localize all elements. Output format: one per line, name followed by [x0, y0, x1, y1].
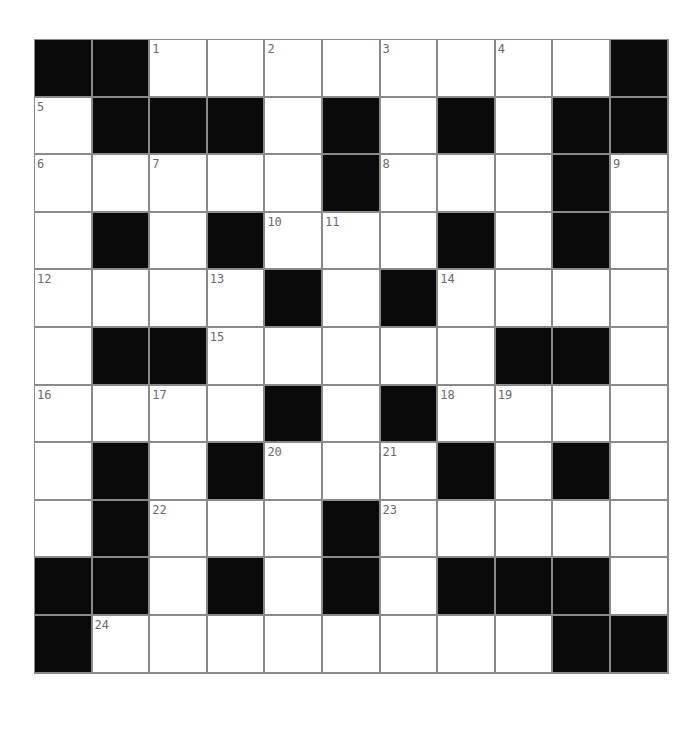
crossword-cell[interactable]: [150, 443, 208, 501]
crossword-cell[interactable]: [93, 270, 151, 328]
crossword-cell[interactable]: [381, 616, 439, 674]
crossword-cell[interactable]: 2: [265, 40, 323, 98]
crossword-cell[interactable]: 22: [150, 501, 208, 559]
crossword-cell[interactable]: 8: [381, 155, 439, 213]
crossword-cell[interactable]: [611, 328, 669, 386]
crossword-cell[interactable]: 3: [381, 40, 439, 98]
crossword-cell[interactable]: 23: [381, 501, 439, 559]
crossword-cell[interactable]: [611, 386, 669, 444]
crossword-cell[interactable]: [265, 558, 323, 616]
crossword-cell[interactable]: 7: [150, 155, 208, 213]
black-square: [265, 270, 323, 328]
crossword-cell[interactable]: 14: [438, 270, 496, 328]
crossword-cell[interactable]: [323, 616, 381, 674]
crossword-cell[interactable]: [438, 501, 496, 559]
crossword-cell[interactable]: [150, 558, 208, 616]
crossword-cell[interactable]: [150, 213, 208, 271]
black-square: [553, 558, 611, 616]
black-square: [611, 616, 669, 674]
crossword-cell[interactable]: [208, 386, 266, 444]
crossword-cell[interactable]: [496, 501, 554, 559]
black-square: [93, 443, 151, 501]
crossword-cell[interactable]: [323, 386, 381, 444]
crossword-cell[interactable]: [323, 40, 381, 98]
crossword-cell[interactable]: [496, 270, 554, 328]
black-square: [323, 98, 381, 156]
clue-number: 20: [267, 446, 281, 458]
black-square: [381, 386, 439, 444]
crossword-cell[interactable]: 6: [35, 155, 93, 213]
black-square: [35, 558, 93, 616]
crossword-cell[interactable]: [323, 443, 381, 501]
crossword-cell[interactable]: [438, 328, 496, 386]
crossword-cell[interactable]: [93, 155, 151, 213]
crossword-cell[interactable]: 24: [93, 616, 151, 674]
crossword-cell[interactable]: [496, 98, 554, 156]
crossword-cell[interactable]: [35, 443, 93, 501]
crossword-cell[interactable]: [265, 155, 323, 213]
clue-number: 22: [152, 504, 166, 516]
black-square: [381, 270, 439, 328]
crossword-cell[interactable]: [381, 213, 439, 271]
crossword-cell[interactable]: [208, 501, 266, 559]
crossword-cell[interactable]: [611, 443, 669, 501]
clue-number: 6: [37, 158, 44, 170]
crossword-cell[interactable]: 12: [35, 270, 93, 328]
crossword-cell[interactable]: [265, 501, 323, 559]
crossword-cell[interactable]: [553, 386, 611, 444]
black-square: [553, 443, 611, 501]
crossword-cell[interactable]: 17: [150, 386, 208, 444]
crossword-cell[interactable]: [265, 616, 323, 674]
crossword-cell[interactable]: [553, 270, 611, 328]
crossword-cell[interactable]: 5: [35, 98, 93, 156]
black-square: [93, 213, 151, 271]
crossword-cell[interactable]: [553, 40, 611, 98]
crossword-cell[interactable]: [265, 98, 323, 156]
crossword-cell[interactable]: 4: [496, 40, 554, 98]
crossword-cell[interactable]: [611, 270, 669, 328]
crossword-cell[interactable]: [438, 616, 496, 674]
crossword-cell[interactable]: [150, 270, 208, 328]
crossword-cell[interactable]: [438, 155, 496, 213]
clue-number: 24: [95, 619, 109, 631]
crossword-cell[interactable]: [381, 558, 439, 616]
crossword-cell[interactable]: 11: [323, 213, 381, 271]
crossword-cell[interactable]: 21: [381, 443, 439, 501]
crossword-cell[interactable]: [35, 213, 93, 271]
crossword-cell[interactable]: [208, 155, 266, 213]
clue-number: 19: [498, 389, 512, 401]
black-square: [611, 40, 669, 98]
crossword-cell[interactable]: [208, 616, 266, 674]
crossword-cell[interactable]: 18: [438, 386, 496, 444]
crossword-cell[interactable]: [381, 328, 439, 386]
crossword-cell[interactable]: [381, 98, 439, 156]
crossword-cell[interactable]: [611, 501, 669, 559]
crossword-cell[interactable]: [208, 40, 266, 98]
crossword-cell[interactable]: [611, 213, 669, 271]
crossword-cell[interactable]: [323, 270, 381, 328]
crossword-cell[interactable]: 16: [35, 386, 93, 444]
crossword-cell[interactable]: [496, 155, 554, 213]
crossword-cell[interactable]: 15: [208, 328, 266, 386]
crossword-cell[interactable]: 10: [265, 213, 323, 271]
crossword-cell[interactable]: [553, 501, 611, 559]
crossword-cell[interactable]: 1: [150, 40, 208, 98]
crossword-cell[interactable]: [496, 443, 554, 501]
black-square: [265, 386, 323, 444]
crossword-cell[interactable]: [265, 328, 323, 386]
crossword-cell[interactable]: 9: [611, 155, 669, 213]
crossword-cell[interactable]: [35, 501, 93, 559]
black-square: [35, 40, 93, 98]
crossword-cell[interactable]: [93, 386, 151, 444]
crossword-cell[interactable]: [611, 558, 669, 616]
crossword-cell[interactable]: 20: [265, 443, 323, 501]
crossword-cell[interactable]: 13: [208, 270, 266, 328]
crossword-cell[interactable]: [496, 213, 554, 271]
black-square: [93, 558, 151, 616]
crossword-cell[interactable]: [323, 328, 381, 386]
crossword-cell[interactable]: [438, 40, 496, 98]
crossword-cell[interactable]: [150, 616, 208, 674]
crossword-cell[interactable]: 19: [496, 386, 554, 444]
crossword-cell[interactable]: [35, 328, 93, 386]
crossword-cell[interactable]: [496, 616, 554, 674]
